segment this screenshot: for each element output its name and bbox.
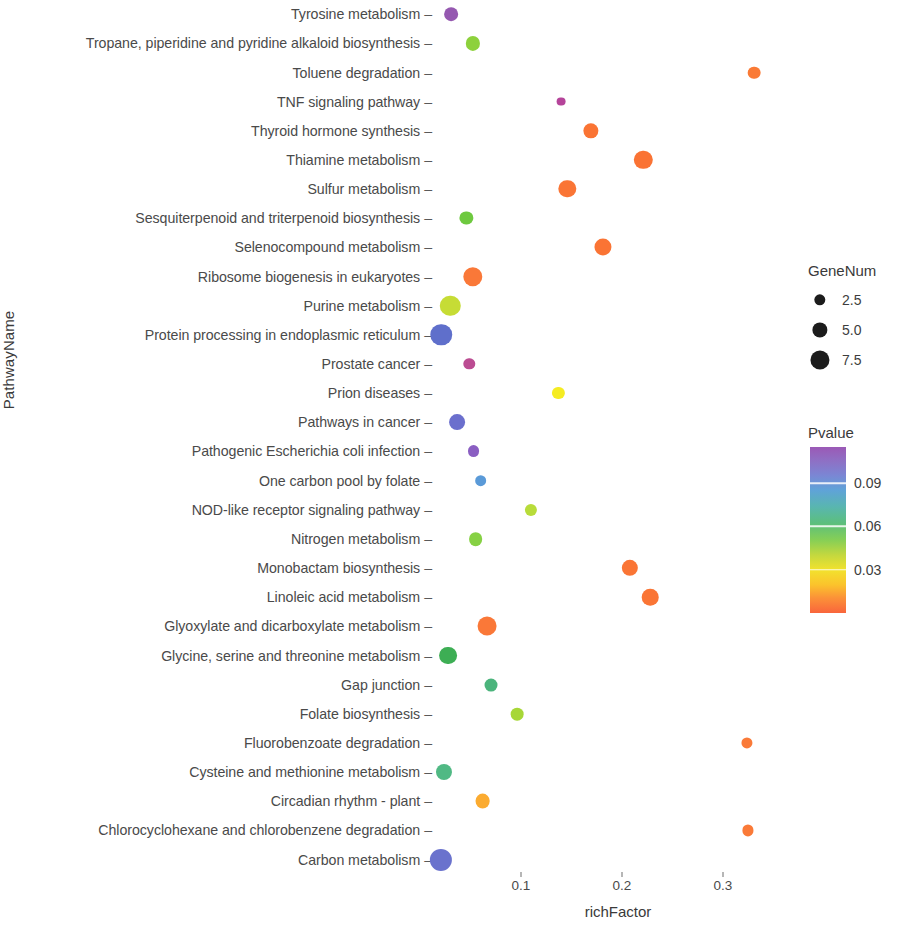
y-axis-tick-label: Thiamine metabolism– bbox=[0, 152, 432, 168]
y-tick-text: Protein processing in endoplasmic reticu… bbox=[145, 327, 420, 343]
data-point bbox=[475, 794, 490, 809]
data-point bbox=[557, 97, 566, 106]
y-tick-mark: – bbox=[424, 269, 432, 285]
plot-panel bbox=[438, 0, 798, 876]
data-point bbox=[583, 123, 598, 138]
y-tick-text: Circadian rhythm - plant bbox=[271, 793, 420, 809]
y-axis-tick-label: Pathogenic Escherichia coli infection– bbox=[0, 443, 432, 459]
y-tick-mark: – bbox=[424, 531, 432, 547]
y-tick-mark: – bbox=[424, 648, 432, 664]
data-point bbox=[742, 737, 753, 748]
genenum-legend-entries: 2.55.07.5 bbox=[808, 285, 906, 375]
y-tick-text: Pathogenic Escherichia coli infection bbox=[192, 443, 420, 459]
y-tick-text: Prion diseases bbox=[328, 385, 420, 401]
y-tick-mark: – bbox=[424, 677, 432, 693]
genenum-legend-row: 2.5 bbox=[808, 285, 906, 315]
data-point bbox=[439, 647, 457, 665]
x-tick-label: 0.3 bbox=[714, 878, 733, 893]
data-point bbox=[594, 239, 611, 256]
data-point bbox=[642, 589, 659, 606]
y-axis-tick-label: Monobactam biosynthesis– bbox=[0, 560, 432, 576]
data-point bbox=[511, 707, 524, 720]
data-point bbox=[559, 180, 576, 197]
data-point bbox=[634, 151, 652, 169]
data-point bbox=[430, 848, 452, 870]
y-tick-mark: – bbox=[424, 473, 432, 489]
x-tick-mark bbox=[521, 872, 522, 877]
data-point bbox=[465, 36, 479, 50]
genenum-legend-title: GeneNum bbox=[808, 262, 906, 279]
y-tick-mark: – bbox=[424, 706, 432, 722]
y-tick-text: Gap junction bbox=[341, 677, 420, 693]
y-axis-tick-label: Folate biosynthesis– bbox=[0, 706, 432, 722]
y-tick-text: Cysteine and methionine metabolism bbox=[189, 764, 420, 780]
data-point bbox=[430, 324, 451, 345]
y-tick-mark: – bbox=[424, 210, 432, 226]
y-tick-mark: – bbox=[424, 35, 432, 51]
data-point bbox=[622, 560, 638, 576]
genenum-legend-label: 2.5 bbox=[842, 292, 861, 308]
y-axis-tick-label: Sulfur metabolism– bbox=[0, 181, 432, 197]
data-point bbox=[436, 764, 452, 780]
y-axis-tick-label: Prion diseases– bbox=[0, 385, 432, 401]
genenum-legend-dot bbox=[812, 322, 827, 337]
y-axis-tick-label: Fluorobenzoate degradation– bbox=[0, 735, 432, 751]
pvalue-colorbar-area: 0.090.060.03 bbox=[808, 447, 906, 619]
y-tick-mark: – bbox=[424, 793, 432, 809]
y-tick-text: Thiamine metabolism bbox=[286, 152, 420, 168]
y-tick-mark: – bbox=[424, 385, 432, 401]
pvalue-colorbar-tick-label: 0.06 bbox=[854, 518, 881, 534]
y-tick-mark: – bbox=[424, 589, 432, 605]
y-axis-tick-label: Selenocompound metabolism– bbox=[0, 239, 432, 255]
data-point bbox=[468, 445, 480, 457]
x-tick-mark bbox=[723, 872, 724, 877]
y-axis-tick-label: Tyrosine metabolism– bbox=[0, 6, 432, 22]
pvalue-colorbar bbox=[810, 447, 846, 613]
y-tick-text: Glyoxylate and dicarboxylate metabolism bbox=[164, 618, 420, 634]
y-tick-text: Sesquiterpenoid and triterpenoid biosynt… bbox=[135, 210, 420, 226]
y-tick-mark: – bbox=[424, 298, 432, 314]
data-point bbox=[552, 387, 564, 399]
y-tick-text: Sulfur metabolism bbox=[307, 181, 420, 197]
y-tick-mark: – bbox=[424, 65, 432, 81]
y-tick-mark: – bbox=[424, 443, 432, 459]
data-point bbox=[748, 66, 761, 79]
x-tick-label: 0.1 bbox=[512, 878, 531, 893]
y-tick-text: Glycine, serine and threonine metabolism bbox=[161, 648, 420, 664]
y-tick-text: Prostate cancer bbox=[322, 356, 421, 372]
bubble-plot-figure: PathwayName Tyrosine metabolism–Tropane,… bbox=[0, 0, 906, 933]
x-axis-title: richFactor bbox=[438, 903, 798, 920]
genenum-legend-dot bbox=[810, 350, 829, 369]
data-point bbox=[449, 414, 465, 430]
x-tick-label: 0.2 bbox=[613, 878, 632, 893]
y-axis-tick-label: Cysteine and methionine metabolism– bbox=[0, 764, 432, 780]
y-tick-mark: – bbox=[424, 6, 432, 22]
data-point bbox=[444, 7, 458, 21]
data-point bbox=[484, 678, 497, 691]
y-tick-mark: – bbox=[424, 618, 432, 634]
y-tick-mark: – bbox=[424, 356, 432, 372]
data-point bbox=[464, 358, 475, 369]
y-axis-tick-label: Sesquiterpenoid and triterpenoid biosynt… bbox=[0, 210, 432, 226]
y-tick-text: Nitrogen metabolism bbox=[291, 531, 420, 547]
genenum-legend-row: 5.0 bbox=[808, 315, 906, 345]
y-axis-tick-label: TNF signaling pathway– bbox=[0, 94, 432, 110]
y-tick-text: Fluorobenzoate degradation bbox=[244, 735, 420, 751]
y-tick-text: Selenocompound metabolism bbox=[234, 239, 420, 255]
y-tick-text: Linoleic acid metabolism bbox=[267, 589, 420, 605]
y-axis-tick-label: Tropane, piperidine and pyridine alkaloi… bbox=[0, 35, 432, 51]
y-axis-tick-label: Circadian rhythm - plant– bbox=[0, 793, 432, 809]
y-axis-tick-label: Toluene degradation– bbox=[0, 65, 432, 81]
y-axis-tick-label: Chlorocyclohexane and chlorobenzene degr… bbox=[0, 822, 432, 838]
data-point bbox=[463, 267, 482, 286]
data-point bbox=[460, 212, 473, 225]
pvalue-colorbar-tick-label: 0.03 bbox=[854, 562, 881, 578]
pvalue-colorbar-tick-label: 0.09 bbox=[854, 475, 881, 491]
y-tick-text: Toluene degradation bbox=[293, 65, 421, 81]
pvalue-color-legend: Pvalue 0.090.060.03 bbox=[808, 424, 906, 619]
y-tick-text: Folate biosynthesis bbox=[300, 706, 421, 722]
pvalue-colorbar-tick-mark bbox=[810, 526, 846, 528]
data-point bbox=[525, 504, 537, 516]
y-axis-tick-label: Pathways in cancer– bbox=[0, 414, 432, 430]
y-axis-tick-label: Glyoxylate and dicarboxylate metabolism– bbox=[0, 618, 432, 634]
